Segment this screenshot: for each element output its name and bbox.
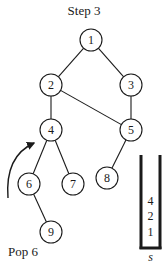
- graph-edge: [55, 140, 69, 174]
- graph-node-3: 3: [120, 74, 142, 96]
- step-caption: Pop 6: [8, 244, 38, 260]
- graph-node-4: 4: [40, 119, 62, 141]
- graph-edge: [58, 48, 83, 77]
- graph-edge: [33, 140, 47, 174]
- stack-label: s: [148, 250, 153, 264]
- graph-node-1: 1: [80, 29, 102, 51]
- node-label: 5: [128, 123, 134, 137]
- graph-edge: [98, 48, 123, 77]
- node-label: 8: [104, 171, 110, 185]
- stack: 4 2 1 s: [140, 155, 162, 264]
- graph-node-6: 6: [18, 173, 40, 195]
- graph-edge: [112, 140, 126, 168]
- node-label: 1: [88, 33, 94, 47]
- graph-node-7: 7: [62, 173, 84, 195]
- stack-item: 2: [148, 209, 154, 223]
- graph-edge: [61, 90, 122, 124]
- node-label: 2: [48, 78, 54, 92]
- graph-nodes: 123456789: [18, 29, 142, 243]
- stack-item: 1: [148, 225, 154, 239]
- graph-diagram: 123456789 4 2 1 s: [0, 0, 168, 264]
- graph-node-9: 9: [40, 221, 62, 243]
- node-label: 4: [48, 123, 54, 137]
- node-label: 3: [128, 78, 134, 92]
- stack-item: 4: [148, 194, 154, 208]
- node-label: 6: [26, 177, 32, 191]
- graph-node-5: 5: [120, 119, 142, 141]
- graph-edge: [34, 194, 47, 222]
- node-label: 7: [70, 177, 76, 191]
- graph-node-2: 2: [40, 74, 62, 96]
- graph-node-8: 8: [96, 167, 118, 189]
- node-label: 9: [48, 225, 54, 239]
